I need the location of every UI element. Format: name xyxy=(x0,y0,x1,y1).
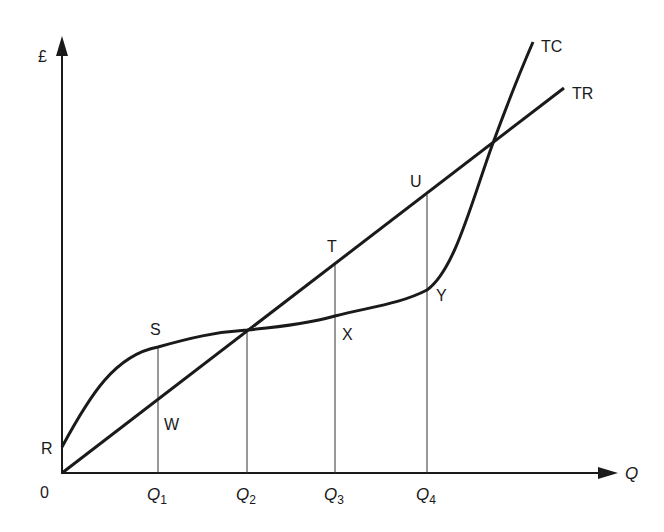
point-x-label: X xyxy=(342,326,353,343)
tc-label: TC xyxy=(541,38,562,55)
point-w-label: W xyxy=(164,416,180,433)
point-s-label: S xyxy=(150,321,161,338)
total-cost-curve xyxy=(62,42,533,447)
total-revenue-line xyxy=(62,88,564,473)
point-u-label: U xyxy=(410,173,422,190)
point-t-label: T xyxy=(327,238,337,255)
point-r-label: R xyxy=(41,440,53,457)
cost-revenue-diagram: £ Q 0 TC TR R S W T X U Y Q1 Q2 Q3 Q4 xyxy=(0,0,664,532)
origin-label: 0 xyxy=(40,484,49,501)
y-axis xyxy=(56,36,68,474)
y-axis-arrow-icon xyxy=(56,36,68,56)
point-y-label: Y xyxy=(436,287,447,304)
x-axis-label: Q xyxy=(625,464,638,483)
x-axis-arrow-icon xyxy=(598,467,618,479)
tick-q4: Q4 xyxy=(416,485,436,507)
tr-label: TR xyxy=(572,85,593,102)
y-axis-label: £ xyxy=(38,48,47,65)
tick-q3: Q3 xyxy=(324,485,344,507)
tick-q1: Q1 xyxy=(147,485,167,507)
quantity-guides xyxy=(158,195,427,473)
x-axis xyxy=(62,467,618,479)
tick-q2: Q2 xyxy=(236,485,256,507)
